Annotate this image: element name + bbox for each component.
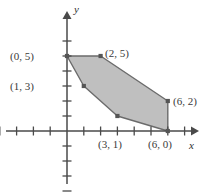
- vertex-marker: [115, 114, 119, 118]
- y-axis-label: y: [74, 4, 79, 15]
- vertex-label-2-5: (2, 5): [105, 48, 129, 59]
- vertex-label-3-1: (3, 1): [98, 139, 122, 150]
- vertex-label-6-0: (6, 0): [148, 139, 172, 150]
- vertex-label-0-5: (0, 5): [10, 51, 34, 62]
- y-axis-arrowhead: [63, 11, 72, 19]
- shaded-region-polygon: [67, 56, 168, 131]
- figure-canvas: (0, 5) (1, 3) (2, 5) (6, 2) (3, 1) (6, 0…: [0, 0, 202, 193]
- coordinate-plot: [0, 0, 202, 193]
- x-axis-arrowhead: [191, 127, 199, 136]
- vertex-marker: [65, 54, 69, 58]
- vertex-marker: [166, 129, 170, 133]
- vertex-marker: [82, 84, 86, 88]
- vertex-label-6-2: (6, 2): [173, 96, 197, 107]
- x-axis-label: x: [189, 140, 194, 151]
- vertex-label-1-3: (1, 3): [10, 81, 34, 92]
- vertex-marker: [166, 99, 170, 103]
- vertex-marker: [99, 54, 103, 58]
